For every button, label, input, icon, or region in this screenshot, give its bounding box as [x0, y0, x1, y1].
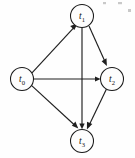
scan-artifact [118, 2, 122, 4]
node-label-t2-subscript: 2 [112, 78, 115, 85]
node-t0[interactable]: t0 [11, 68, 34, 91]
scan-artifact [128, 9, 131, 12]
node-t3[interactable]: t3 [71, 130, 94, 153]
edge-t1-to-t2 [89, 26, 107, 66]
arrowhead-t0-t3 [72, 121, 78, 128]
arrowhead-t2-t3 [87, 122, 92, 130]
edge-line-t0-t1 [32, 26, 75, 73]
edge-t2-to-t3 [87, 89, 107, 130]
edge-line-t1-t2 [89, 26, 105, 63]
arrowhead-t1-t3 [79, 123, 84, 129]
arrowhead-t0-t2 [95, 76, 101, 81]
edge-line-t2-t3 [89, 89, 107, 126]
node-t1[interactable]: t1 [71, 5, 94, 28]
edge-t0-to-t2 [34, 76, 101, 81]
scan-artifact [103, 2, 106, 4]
edge-line-t0-t3 [32, 86, 76, 126]
node-t2[interactable]: t2 [101, 68, 124, 91]
directed-graph: t0 t1 t2 t3 [0, 0, 135, 158]
diagram-canvas: t0 t1 t2 t3 [0, 0, 135, 158]
edge-t0-to-t1 [32, 24, 78, 73]
edge-t1-to-t3 [79, 28, 84, 130]
edge-t0-to-t3 [32, 86, 79, 129]
node-label-t1-subscript: 1 [82, 15, 85, 22]
